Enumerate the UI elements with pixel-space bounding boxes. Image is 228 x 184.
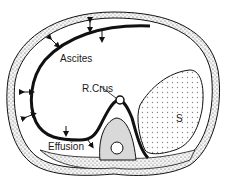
effusion-label: Effusion <box>48 141 84 152</box>
spleen-label: S <box>176 113 183 124</box>
abdominal-cross-section-diagram: S Ascites R.Crus Effusion <box>0 0 228 184</box>
crus-label: R.Crus <box>82 83 113 94</box>
crus-circle <box>116 96 124 104</box>
ascites-label: Ascites <box>60 53 92 64</box>
